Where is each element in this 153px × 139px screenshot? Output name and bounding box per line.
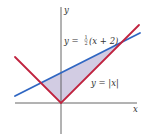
line-equation-label: y = 1 2 (x + 2) [63, 34, 118, 47]
line-label-frac-num: 1 [85, 34, 88, 40]
line-label-prefix: y = [63, 36, 79, 46]
graph-canvas: y x y = 1 2 (x + 2) y = |x| [0, 0, 153, 139]
svg-text:y =: y = [63, 36, 79, 46]
absolute-value-equation-label: y = |x| [90, 78, 119, 89]
line-label-frac-den: 2 [85, 40, 88, 46]
y-axis-label: y [63, 5, 69, 15]
x-axis-label: x [133, 104, 138, 114]
line-label-suffix: (x + 2) [89, 36, 118, 46]
